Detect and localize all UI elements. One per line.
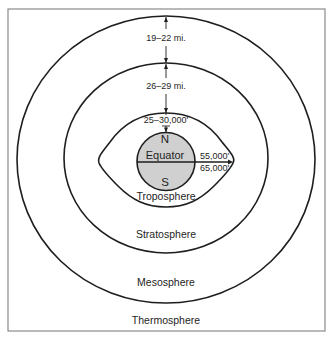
- stratosphere-label: Stratosphere: [136, 228, 196, 240]
- troposphere-polar-height-label: 25–30,000': [144, 115, 189, 125]
- north-pole-label: N: [161, 133, 169, 145]
- troposphere-equator-max-label: 65,000': [200, 163, 230, 173]
- equator-label: Equator: [146, 149, 185, 161]
- mesosphere-label: Mesosphere: [137, 276, 195, 288]
- thermosphere-label: Thermosphere: [132, 314, 200, 326]
- troposphere-label: Troposphere: [136, 190, 195, 202]
- troposphere-equator-min-label: 55,000': [200, 151, 230, 161]
- stratosphere-thickness-label: 26–29 mi.: [146, 81, 186, 91]
- south-pole-label: S: [161, 176, 169, 188]
- atmosphere-layers-diagram: 19–22 mi. 26–29 mi. 25–30,000' 55,000' 6…: [0, 0, 332, 341]
- mesosphere-thickness-label: 19–22 mi.: [146, 33, 186, 43]
